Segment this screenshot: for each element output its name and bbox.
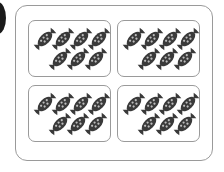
question-number-mark [0,2,6,34]
candy-group-top-right [117,20,200,77]
candy-group-bottom-left [28,85,111,142]
candy-group-top-left [28,20,111,77]
candy-group-bottom-right [117,85,200,142]
